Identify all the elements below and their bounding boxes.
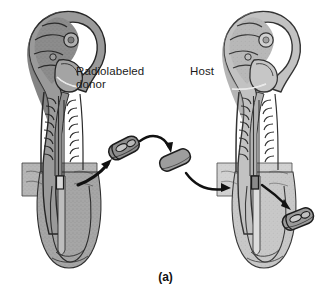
donor-otic-vesicle bbox=[50, 54, 56, 60]
embryo-graft-figure: Radiolabeled donor Host (a) bbox=[0, 0, 331, 302]
host-otic-vesicle bbox=[245, 54, 251, 60]
figure-caption: (a) bbox=[0, 270, 331, 284]
host-graft-site bbox=[252, 176, 259, 189]
label-host: Host bbox=[190, 65, 214, 78]
donor-graft-site bbox=[57, 176, 64, 189]
label-radiolabeled-donor: Radiolabeled donor bbox=[76, 65, 144, 91]
diagram-canvas bbox=[0, 0, 331, 302]
